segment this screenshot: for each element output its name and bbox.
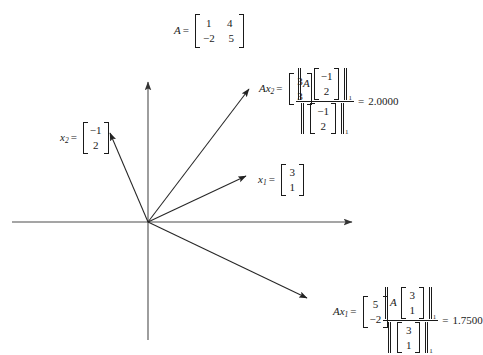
matrix-cell: 5 [227, 31, 236, 46]
norm-bars-left [298, 68, 302, 100]
norm-expression: 3 1 1 [388, 322, 433, 354]
norm-subscript: 1 [345, 129, 349, 136]
ratio-equals: = [442, 315, 448, 326]
bracket-right [331, 103, 336, 135]
vector-component: 1 [404, 338, 413, 353]
vector-row: −1 [90, 123, 102, 138]
fraction-denominator: 3 1 1 [386, 322, 435, 354]
vector-cells: 3 1 [286, 164, 299, 196]
bracket-right [299, 164, 304, 196]
vector-column-bracket: 3 1 [277, 164, 308, 196]
vector-cells: 5 −2 [368, 296, 384, 328]
vector-component: −1 [90, 123, 102, 138]
vector-row: 1 [404, 338, 413, 353]
norm-subscript: 1 [433, 314, 437, 321]
vector-row: 2 [317, 119, 329, 134]
matrix-row: −2 5 [203, 31, 236, 46]
fraction-numerator: A 3 1 [383, 287, 438, 319]
fraction: A 3 1 [383, 287, 438, 353]
norm-ratio-x1: A 3 1 [383, 287, 483, 353]
vector-component: −2 [370, 312, 382, 327]
vector-column-bracket: −1 2 [79, 122, 113, 154]
ratio-value: 2.0000 [368, 96, 398, 107]
vector-column-bracket: −1 2 [306, 103, 340, 135]
matrix-A-bracket: 1 4 −2 5 [191, 14, 248, 48]
vector-row: −2 [370, 312, 382, 327]
vector-row: 1 [408, 303, 417, 318]
vector-label-base: Ax [259, 83, 271, 94]
norm-expression: A 3 1 [385, 287, 436, 319]
vector-component: 3 [404, 323, 413, 338]
matrix-row: 1 4 [203, 16, 236, 31]
vector-row: −1 [317, 104, 329, 119]
fraction-bar [383, 320, 438, 321]
fraction-numerator: A −1 2 [296, 68, 354, 100]
matrix-cell: 4 [225, 16, 234, 31]
vector-column-bracket: 3 1 [393, 322, 424, 354]
fraction-denominator: −1 2 1 [299, 103, 350, 135]
bracket-right [104, 122, 109, 154]
vector-component: −1 [317, 104, 329, 119]
vector-label-equals: = [71, 132, 77, 143]
norm-ratio-x2: A −1 2 [296, 68, 398, 134]
norm-bars-left [301, 103, 305, 135]
vector-label-subscript: 1 [345, 311, 349, 319]
vector-row: 3 [404, 323, 413, 338]
matrix-A-definition: A = 1 4 −2 5 [174, 14, 248, 48]
vector-label-base: Ax [333, 306, 345, 317]
bracket-right [239, 14, 244, 48]
vector-row: 2 [90, 138, 102, 153]
vector-row: 3 [288, 165, 297, 180]
vector-component: 1 [408, 303, 417, 318]
vector-row: 2 [321, 84, 333, 99]
vector-column-bracket: 3 1 [397, 287, 428, 319]
vector-arrow-Ax1 [148, 222, 307, 298]
vector-arrow-Ax2 [148, 89, 249, 222]
vector-component: 2 [322, 84, 331, 99]
vector-cells: 3 1 [406, 287, 419, 319]
vector-component: 1 [288, 180, 297, 195]
vector-cells: −1 2 [315, 103, 331, 135]
norm-subscript: 1 [348, 95, 352, 102]
vector-component: −1 [321, 69, 333, 84]
vector-label-subscript: 1 [263, 179, 267, 187]
norm-subscript: 1 [429, 348, 433, 355]
matrix-A-name: A [303, 78, 310, 89]
norm-content: −1 2 [305, 103, 341, 135]
matrix-A-cells: 1 4 −2 5 [200, 14, 239, 48]
ratio-equals: = [358, 96, 364, 107]
vector-row: 1 [288, 180, 297, 195]
norm-content: A 3 1 [389, 287, 429, 319]
vector-label-equals: = [276, 83, 282, 94]
vector-component: 2 [319, 119, 328, 134]
vector-label-subscript: 2 [271, 88, 275, 96]
vector-component: 3 [408, 288, 417, 303]
norm-bars-left [388, 322, 392, 354]
matrix-A-name: A [174, 25, 181, 36]
vector-row: 5 [370, 297, 382, 312]
matrix-A-equals: = [183, 25, 189, 36]
vector-label-equals: = [350, 306, 356, 317]
vector-component: 5 [371, 297, 380, 312]
matrix-A-name: A [390, 297, 397, 308]
matrix-cell: −2 [203, 31, 215, 46]
bracket-right [419, 287, 424, 319]
vector-cells: −1 2 [319, 68, 335, 100]
norm-bars-left [385, 287, 389, 319]
vector-label-x2: x2 = −1 2 [60, 122, 113, 154]
bracket-right [334, 68, 339, 100]
vector-row: 3 [408, 288, 417, 303]
norm-content: 3 1 [392, 322, 425, 354]
vector-component: 3 [288, 165, 297, 180]
fraction: A −1 2 [296, 68, 354, 134]
fraction-bar [296, 101, 354, 102]
vector-column-bracket: −1 2 [310, 68, 344, 100]
bracket-right [415, 322, 420, 354]
vector-component: 2 [91, 138, 100, 153]
vector-cells: −1 2 [88, 122, 104, 154]
vector-label-subscript: 2 [65, 137, 69, 145]
vector-label-equals: = [269, 174, 275, 185]
ratio-value: 1.7500 [452, 315, 482, 326]
vector-row: −1 [321, 69, 333, 84]
